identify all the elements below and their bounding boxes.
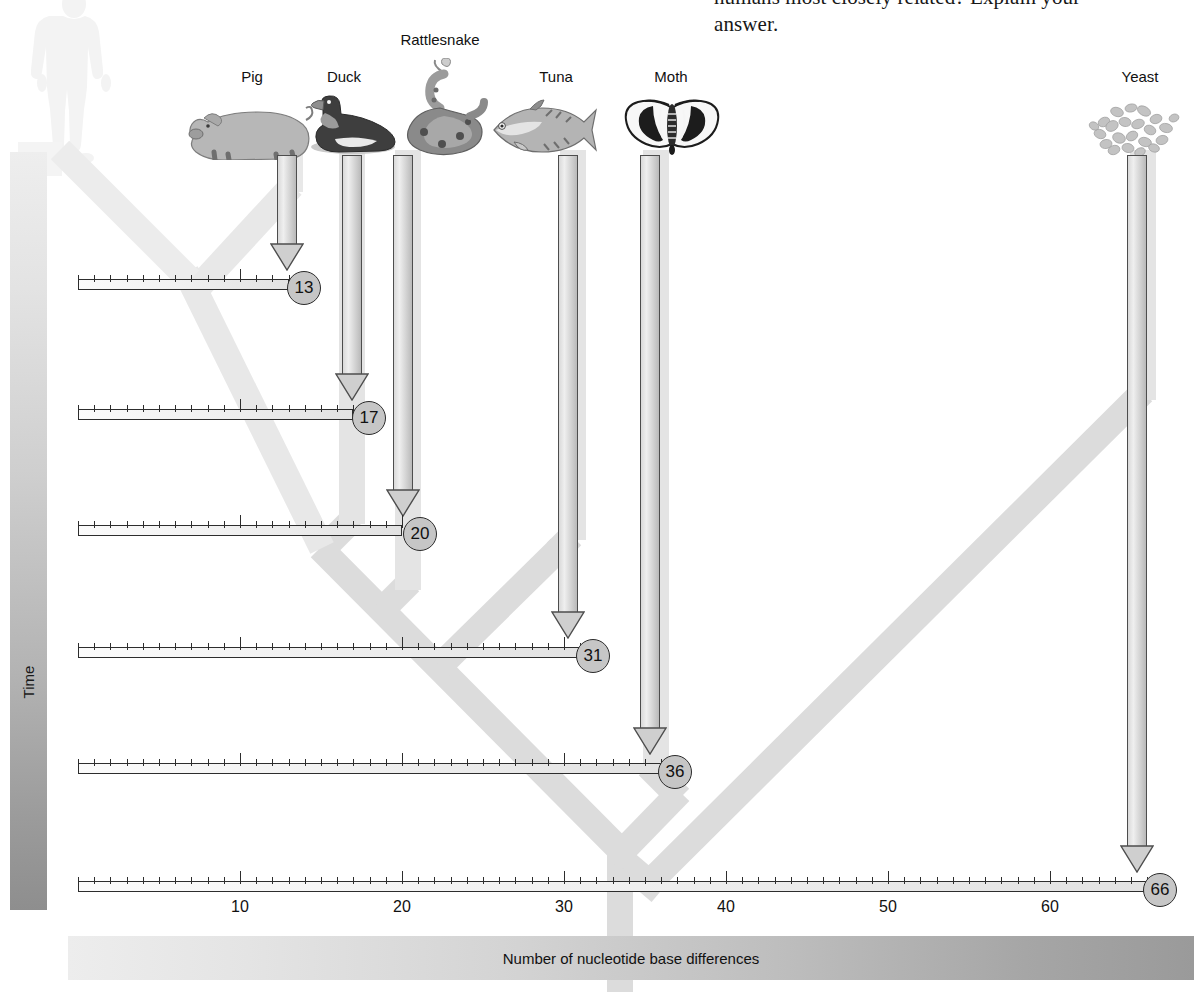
ruler-tick-minor <box>159 521 160 528</box>
ruler-tick-major <box>240 871 241 884</box>
arrow-shaft-pig <box>277 155 297 245</box>
organism-label-yeast: Yeast <box>1122 68 1159 85</box>
ruler-tick-major <box>402 753 403 766</box>
ruler-tick-minor <box>78 759 79 766</box>
ruler-tick-minor <box>532 643 533 650</box>
arrow-head-pig <box>270 243 304 271</box>
ruler-tick-minor <box>418 759 419 766</box>
ruler-tick-minor <box>418 643 419 650</box>
ruler-tick-major <box>726 871 727 884</box>
ruler-tick-minor <box>224 643 225 650</box>
ruler-tick-minor <box>191 759 192 766</box>
ruler-tick-minor <box>710 877 711 884</box>
rattlesnake-icon <box>398 58 488 158</box>
ruler-tick-minor <box>256 643 257 650</box>
ruler-tick-minor <box>1115 877 1116 884</box>
ruler-tick-minor <box>208 759 209 766</box>
ruler-tick-minor <box>451 877 452 884</box>
ruler-tick-minor <box>321 405 322 412</box>
ruler-tick-minor <box>272 521 273 528</box>
branch-human <box>60 150 190 280</box>
ruler-tick-minor <box>321 521 322 528</box>
ruler-tick-minor <box>110 405 111 412</box>
ruler-tick-minor <box>78 275 79 282</box>
ruler-tick-minor <box>629 759 630 766</box>
ruler-tick-minor <box>127 643 128 650</box>
duck-icon <box>305 95 397 157</box>
branch-vertebrate-spine <box>320 548 626 856</box>
ruler-tick-minor <box>159 877 160 884</box>
ruler-row-36 <box>78 756 661 774</box>
ruler-tick-minor <box>175 275 176 282</box>
ruler-tick-minor <box>337 643 338 650</box>
arrow-head-yeast <box>1120 845 1154 873</box>
ruler-tick-minor <box>78 877 79 884</box>
ruler-tick-minor <box>353 877 354 884</box>
ruler-tick-minor <box>256 405 257 412</box>
x-axis-tick-30: 30 <box>555 898 573 916</box>
ruler-tick-minor <box>532 759 533 766</box>
ruler-tick-minor <box>1099 877 1100 884</box>
ruler-tick-minor <box>758 877 759 884</box>
ruler-tick-major <box>564 871 565 884</box>
ruler-tick-minor <box>127 521 128 528</box>
ruler-tick-minor <box>467 643 468 650</box>
ruler-tick-minor <box>94 643 95 650</box>
ruler-tick-minor <box>807 877 808 884</box>
ruler-row-31 <box>78 640 580 658</box>
ruler-tick-minor <box>548 759 549 766</box>
ruler-tick-minor <box>434 877 435 884</box>
ruler-tick-minor <box>321 759 322 766</box>
ruler-tick-minor <box>272 275 273 282</box>
ruler-tick-minor <box>224 275 225 282</box>
arrow-shaft-moth <box>640 155 660 729</box>
ruler-tick-minor <box>920 877 921 884</box>
moth-icon <box>623 96 721 156</box>
ruler-tick-minor <box>580 877 581 884</box>
ruler-tick-minor <box>321 877 322 884</box>
ruler-tick-minor <box>353 643 354 650</box>
ruler-tick-minor <box>337 877 338 884</box>
ruler-tick-minor <box>305 759 306 766</box>
ruler-tick-minor <box>289 405 290 412</box>
ruler-tick-minor <box>613 877 614 884</box>
ruler-tick-minor <box>856 877 857 884</box>
ruler-tick-minor <box>613 759 614 766</box>
ruler-tick-minor <box>937 877 938 884</box>
ruler-tick-minor <box>127 275 128 282</box>
ruler-tick-minor <box>110 877 111 884</box>
ruler-tick-minor <box>548 643 549 650</box>
ruler-tick-minor <box>483 759 484 766</box>
ruler-tick-minor <box>159 405 160 412</box>
ruler-tick-minor <box>791 877 792 884</box>
ruler-tick-minor <box>1131 877 1132 884</box>
ruler-tick-minor <box>370 877 371 884</box>
value-node-yeast: 66 <box>1143 873 1177 907</box>
ruler-tick-minor <box>645 877 646 884</box>
ruler-tick-minor <box>353 521 354 528</box>
ruler-tick-minor <box>175 877 176 884</box>
ruler-tick-minor <box>370 643 371 650</box>
ruler-tick-minor <box>451 759 452 766</box>
ruler-tick-minor <box>159 643 160 650</box>
ruler-tick-major <box>240 269 241 282</box>
ruler-tick-minor <box>532 877 533 884</box>
ruler-tick-minor <box>823 877 824 884</box>
ruler-tick-major <box>240 753 241 766</box>
ruler-tick-minor <box>272 759 273 766</box>
x-axis-tick-60: 60 <box>1041 898 1059 916</box>
ruler-tick-minor <box>694 877 695 884</box>
ruler-tick-major <box>402 637 403 650</box>
ruler-tick-minor <box>629 877 630 884</box>
ruler-tick-minor <box>451 643 452 650</box>
ruler-tick-major <box>240 637 241 650</box>
arrow-shaft-yeast <box>1127 155 1147 847</box>
ruler-tick-minor <box>94 405 95 412</box>
ruler-tick-major <box>888 871 889 884</box>
ruler-tick-minor <box>337 521 338 528</box>
yeast-icon <box>1086 98 1186 160</box>
ruler-tick-minor <box>272 877 273 884</box>
ruler-tick-minor <box>305 877 306 884</box>
ruler-tick-minor <box>580 759 581 766</box>
arrow-head-moth <box>633 727 667 755</box>
